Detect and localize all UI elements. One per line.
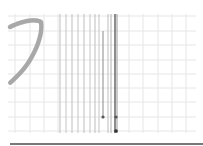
point-marker (101, 115, 104, 118)
point-marker (114, 129, 118, 133)
point-marker (114, 115, 117, 118)
drawing-canvas[interactable] (0, 0, 203, 146)
